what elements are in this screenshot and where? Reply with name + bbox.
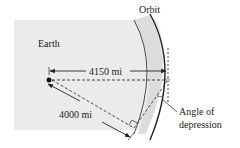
orbit-label: Orbit [139,4,160,15]
satellite-icon [167,79,170,82]
angle-label-line2: depression [179,119,222,130]
earth-center-dot [47,78,52,83]
distance-label: 4150 mi [89,66,122,77]
radius-label: 4000 mi [59,109,92,120]
angle-label-line1: Angle of [179,106,215,117]
earth-satellite-diagram: Orbit Earth 4150 mi 4000 mi Angle of dep… [0,0,240,148]
earth-label: Earth [38,38,60,49]
